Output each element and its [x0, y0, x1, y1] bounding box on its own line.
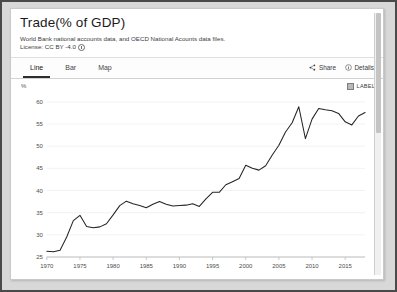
x-tick-label: 1980: [106, 263, 120, 269]
page-title: Trade(% of GDP): [20, 15, 374, 31]
chart-card: Trade(% of GDP) World Bank national acco…: [10, 8, 384, 280]
details-button[interactable]: Details: [345, 64, 374, 71]
line-chart-plot[interactable]: 2530354045505560197019751980198519901995…: [11, 79, 383, 280]
y-tick-label: 60: [36, 99, 43, 105]
license-text: License: CC BY -4.0: [20, 43, 374, 51]
x-tick-label: 2000: [239, 263, 253, 269]
x-tick-label: 2015: [339, 263, 353, 269]
y-tick-label: 25: [36, 254, 43, 260]
tab-map[interactable]: Map: [87, 58, 123, 78]
tab-bar-label: Bar: [65, 64, 76, 71]
chart-body: % LABEL 25303540455055601970197519801985…: [11, 79, 383, 280]
x-tick-label: 1990: [173, 263, 187, 269]
x-tick-label: 2010: [305, 263, 319, 269]
y-tick-label: 55: [36, 121, 43, 127]
info-circle-icon: [345, 64, 352, 71]
screenshot-root: Trade(% of GDP) World Bank national acco…: [0, 0, 397, 292]
tab-line-label: Line: [30, 64, 43, 71]
info-circle-icon[interactable]: [78, 44, 85, 51]
tab-bar-chart[interactable]: Bar: [54, 58, 87, 78]
x-tick-label: 1985: [140, 263, 154, 269]
tab-bar: Line Bar Map Sh: [11, 57, 383, 79]
details-button-label: Details: [354, 64, 374, 71]
share-button[interactable]: Share: [309, 64, 336, 71]
tab-list: Line Bar Map: [11, 58, 123, 78]
share-button-label: Share: [319, 64, 336, 71]
x-tick-label: 1995: [206, 263, 220, 269]
x-tick-label: 2005: [272, 263, 286, 269]
scrollbar-track[interactable]: [374, 13, 381, 275]
series-line-0: [47, 107, 365, 252]
y-tick-label: 45: [36, 165, 43, 171]
header-actions: Share Details: [309, 58, 383, 78]
tab-map-label: Map: [98, 64, 112, 71]
license-label: License: CC BY -4.0: [20, 43, 76, 51]
y-tick-label: 35: [36, 210, 43, 216]
x-tick-label: 1970: [40, 263, 54, 269]
card-header: Trade(% of GDP) World Bank national acco…: [11, 9, 383, 57]
source-text: World Bank national accounts data, and O…: [20, 35, 374, 43]
y-tick-label: 40: [36, 187, 43, 193]
y-tick-label: 50: [36, 143, 43, 149]
tab-line[interactable]: Line: [19, 58, 54, 78]
y-tick-label: 30: [36, 232, 43, 238]
share-icon: [309, 64, 316, 71]
scrollbar-thumb[interactable]: [376, 13, 381, 133]
x-tick-label: 1975: [73, 263, 87, 269]
